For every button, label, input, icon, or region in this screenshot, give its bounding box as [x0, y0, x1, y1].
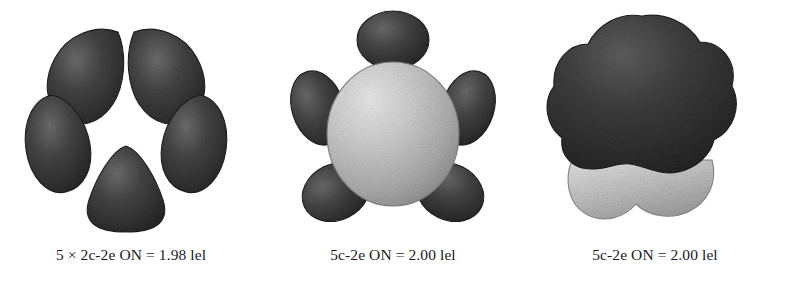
orbital-lobes-1: [25, 29, 227, 232]
panel-1-caption: 5 × 2c-2e ON = 1.98 lel: [0, 246, 262, 264]
lobe-bottom: [87, 146, 165, 232]
orbital-image-1: [0, 0, 262, 240]
orbital-lobes-2: [282, 11, 505, 233]
panel-2-caption: 5c-2e ON = 2.00 lel: [262, 246, 524, 264]
orbital-panel-2: 5c-2e ON = 2.00 lel: [262, 0, 524, 299]
orbital-image-3: [524, 0, 786, 240]
orbital-figure: 5 × 2c-2e ON = 1.98 lel: [0, 0, 786, 299]
upper-dark-cloud: [547, 15, 736, 173]
lobe-top: [357, 11, 429, 69]
orbital-panel-3: 5c-2e ON = 2.00 lel: [524, 0, 786, 299]
orbital-lobes-3: [547, 15, 736, 219]
orbital-svg-1: [0, 0, 262, 240]
orbital-image-2: [262, 0, 524, 240]
central-sphere: [327, 62, 459, 206]
orbital-svg-2: [262, 0, 524, 240]
orbital-panel-1: 5 × 2c-2e ON = 1.98 lel: [0, 0, 262, 299]
orbital-svg-3: [524, 0, 786, 240]
panel-3-caption: 5c-2e ON = 2.00 lel: [524, 246, 786, 264]
